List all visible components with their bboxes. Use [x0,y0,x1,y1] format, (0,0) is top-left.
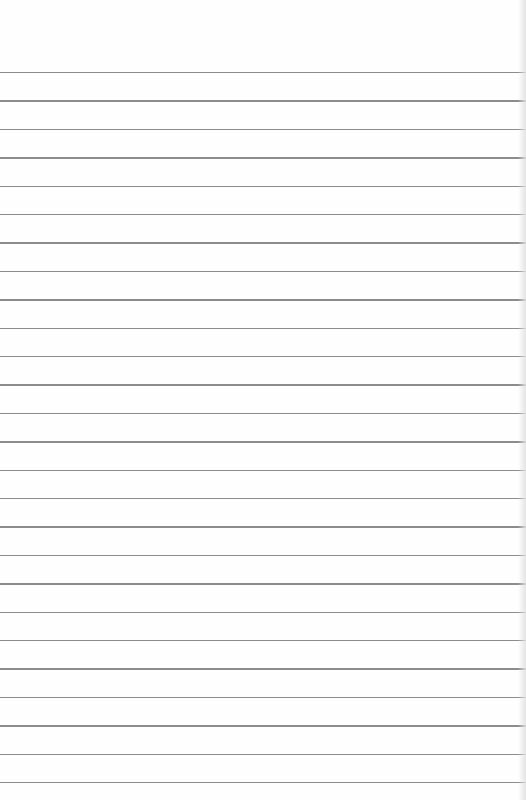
ruled-line [0,668,526,669]
ruled-line [0,441,526,442]
ruled-line [0,413,526,414]
ruled-line [0,356,526,357]
lined-paper-page [0,0,526,800]
ruled-line [0,271,526,272]
page-edge-shadow [518,0,526,800]
ruled-line [0,299,526,300]
ruled-line [0,526,526,527]
ruled-line [0,555,526,556]
ruled-line [0,612,526,613]
ruled-line [0,640,526,641]
ruled-line [0,384,526,385]
ruled-line [0,214,526,215]
ruled-line [0,72,526,73]
ruled-line [0,100,526,101]
ruled-line [0,498,526,499]
ruled-line [0,725,526,726]
ruled-line [0,754,526,755]
ruled-line [0,470,526,471]
ruled-line [0,328,526,329]
ruled-line [0,186,526,187]
ruled-line [0,697,526,698]
ruled-line [0,242,526,243]
ruled-line [0,129,526,130]
ruled-line [0,583,526,584]
ruled-line [0,782,526,783]
ruled-line [0,157,526,158]
